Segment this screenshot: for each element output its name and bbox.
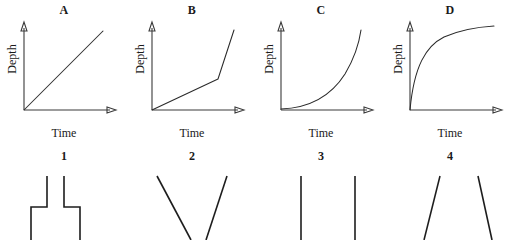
vessel-4-left-wall — [424, 176, 440, 240]
container-panel-3: 3 — [257, 142, 385, 240]
graph-panel-c: C Depth Time — [257, 0, 385, 142]
container-panel-1: 1 — [0, 142, 128, 240]
vessel-1-left-wall — [31, 176, 47, 240]
y-axis-label-a: Depth — [5, 31, 19, 87]
container-panel-4: 4 — [386, 142, 514, 240]
curve-d-logarithmic — [410, 26, 494, 110]
x-axis-label-b: Time — [128, 126, 256, 140]
x-axis-label-a: Time — [0, 126, 128, 140]
vessel-shape-2 — [128, 164, 256, 240]
curve-b-piecewise — [152, 30, 234, 110]
graph-panel-b: B Depth Time — [128, 0, 256, 142]
y-axis-label-c: Depth — [262, 31, 276, 87]
container-label-1: 1 — [0, 149, 128, 163]
curve-a-linear — [24, 31, 103, 110]
vessel-2-right-wall — [206, 176, 227, 240]
graph-panel-d: D Depth Time — [386, 0, 514, 142]
vessel-1-right-wall — [64, 176, 80, 240]
axes-c — [278, 22, 373, 113]
graph-plot-d — [404, 18, 504, 116]
curve-c-exponential — [281, 30, 361, 109]
graph-label-b: B — [128, 3, 256, 17]
vessel-2-left-wall — [157, 176, 191, 240]
graph-label-c: C — [257, 3, 385, 17]
container-label-4: 4 — [386, 149, 514, 163]
container-label-3: 3 — [257, 149, 385, 163]
vessel-shape-3 — [257, 164, 385, 240]
graph-label-a: A — [0, 3, 128, 17]
graph-panel-a: A Depth Time — [0, 0, 128, 142]
vessel-shape-4 — [386, 164, 514, 240]
x-axis-label-c: Time — [257, 126, 385, 140]
graph-plot-c — [275, 18, 375, 116]
y-axis-label-b: Depth — [133, 31, 147, 87]
graph-plot-a — [18, 18, 118, 116]
vessel-shape-1 — [0, 164, 128, 240]
vessel-4-right-wall — [478, 176, 492, 240]
graph-container-matching-figure: A Depth Time B Depth Time — [0, 0, 514, 240]
container-label-2: 2 — [128, 149, 256, 163]
container-panel-2: 2 — [128, 142, 256, 240]
graph-label-d: D — [386, 3, 514, 17]
axes-d — [407, 22, 502, 113]
y-axis-label-d: Depth — [391, 31, 405, 87]
axes-b — [149, 22, 244, 113]
x-axis-label-d: Time — [386, 126, 514, 140]
graph-plot-b — [146, 18, 246, 116]
